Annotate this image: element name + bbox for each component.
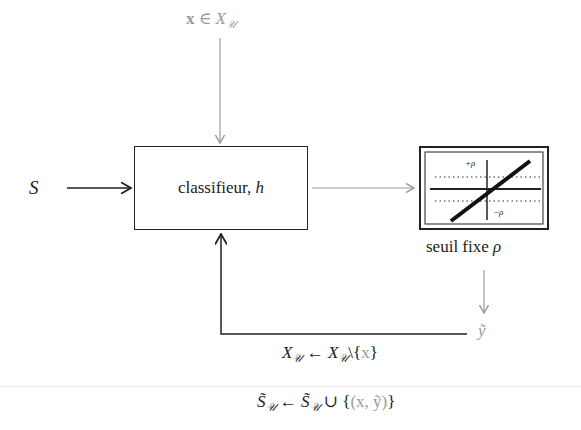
training-set-label: S (29, 177, 39, 199)
minus-rho-label: −ρ (493, 207, 503, 217)
plus-rho-label: +ρ (465, 158, 475, 168)
threshold-caption: seuil fixe ρ (426, 237, 501, 257)
input-sample-label: x ∈ X𝒰 (186, 8, 236, 31)
pseudo-labeled-set-update: S̃𝒰 ← S̃𝒰 ∪ {(x, ỹ)} (257, 391, 395, 414)
predicted-label: ỹ (478, 321, 486, 341)
threshold-box: +ρ −ρ (419, 146, 549, 230)
threshold-plot-icon (421, 148, 547, 228)
divider (0, 386, 581, 387)
classifier-label: classifieur, h (135, 178, 307, 198)
classifier-box: classifieur, h (134, 146, 308, 230)
unlabeled-set-update: X𝒰 ← X𝒰\{x} (282, 343, 378, 365)
